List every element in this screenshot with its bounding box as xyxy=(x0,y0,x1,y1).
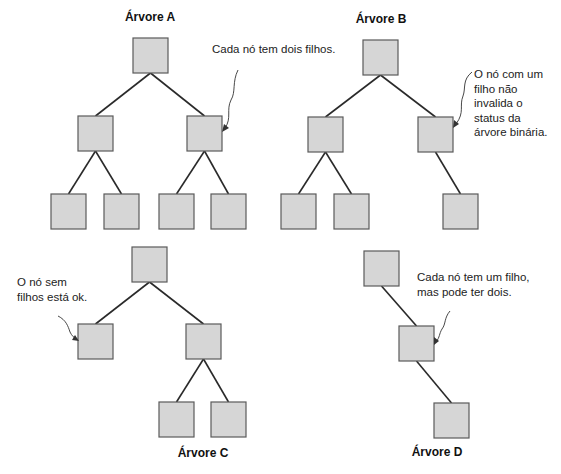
tree-a-edge-root-l xyxy=(96,73,151,116)
tree-b-title: Árvore B xyxy=(356,11,407,26)
annotation-line: status da xyxy=(474,112,521,124)
tree-a-node-l xyxy=(78,116,113,151)
annotation-line: Cada nó tem um filho, xyxy=(417,271,530,283)
tree-a-node-ll xyxy=(51,194,86,229)
tree-c-node-root xyxy=(132,247,167,282)
tree-c-node-rr xyxy=(211,402,246,437)
tree-d-annotation: Cada nó tem um filho, mas pode ter dois. xyxy=(417,271,533,298)
tree-d-node-root xyxy=(364,251,399,286)
tree-c-node-l xyxy=(78,324,113,359)
tree-c-annotation-pointer xyxy=(58,316,77,339)
tree-b-node-root xyxy=(363,40,398,75)
tree-a-node-root xyxy=(133,38,168,73)
tree-b-node-lr xyxy=(334,194,369,229)
tree-c-edge-root-r xyxy=(150,282,204,324)
tree-b-node-r xyxy=(418,117,453,152)
tree-b-edge-root-l xyxy=(326,75,381,117)
annotation-line: mas pode ter dois. xyxy=(417,286,512,298)
tree-d-node-mid xyxy=(399,326,434,361)
tree-a-annotation-pointer xyxy=(225,70,238,128)
tree-b-edge-root-r xyxy=(381,75,436,117)
annotation-line: O nó com um xyxy=(474,68,543,80)
tree-a-node-lr xyxy=(104,194,139,229)
tree-c-edge-r-rr xyxy=(204,359,229,402)
annotation-line: filho não xyxy=(474,83,517,95)
tree-d-edge-root-mid xyxy=(382,286,417,326)
nodes-layer xyxy=(51,38,478,438)
annotation-line: filhos está ok. xyxy=(17,291,87,303)
tree-a-edge-r-rl xyxy=(177,151,205,194)
tree-b-edge-r-rr xyxy=(436,152,461,194)
tree-b-annotation: O nó com um filho não invalida o status … xyxy=(474,68,548,138)
tree-a-title: Árvore A xyxy=(125,9,176,24)
tree-a-edge-root-r xyxy=(151,73,205,116)
tree-c-edge-r-rl xyxy=(177,359,204,402)
tree-c-node-rl xyxy=(159,402,194,437)
tree-a-annotation: Cada nó tem dois filhos. xyxy=(212,43,335,55)
annotation-line: árvore binária. xyxy=(474,126,548,138)
annotation-line: invalida o xyxy=(474,97,523,109)
annotation-line: O nó sem xyxy=(17,276,67,288)
tree-a-arrowhead-icon xyxy=(222,124,229,132)
tree-d-node-leaf xyxy=(434,403,469,438)
tree-b-edge-l-ll xyxy=(299,152,326,194)
tree-a-node-r xyxy=(187,116,222,151)
annotation-line: Cada nó tem dois filhos. xyxy=(212,43,335,55)
tree-d-title: Árvore D xyxy=(412,444,463,459)
tree-b-node-ll xyxy=(281,194,316,229)
tree-a-node-rr xyxy=(211,194,246,229)
tree-c-edge-root-l xyxy=(96,282,150,324)
tree-c-title: Árvore C xyxy=(178,445,229,460)
tree-c-node-r xyxy=(186,324,221,359)
tree-a-edge-r-rr xyxy=(205,151,229,194)
tree-b-node-l xyxy=(308,117,343,152)
tree-d-edge-mid-leaf xyxy=(417,361,452,403)
tree-a-node-rl xyxy=(159,194,194,229)
tree-b-edge-l-lr xyxy=(326,152,352,194)
tree-a-edge-l-lr xyxy=(96,151,122,194)
tree-c-annotation: O nó sem filhos está ok. xyxy=(17,276,87,303)
tree-b-annotation-pointer xyxy=(456,72,472,124)
tree-d-annotation-pointer xyxy=(436,311,450,342)
binary-trees-diagram: Árvore A Árvore B Árvore C Árvore D Cada… xyxy=(0,0,561,474)
tree-a-edge-l-ll xyxy=(69,151,96,194)
tree-b-node-rr xyxy=(443,194,478,229)
